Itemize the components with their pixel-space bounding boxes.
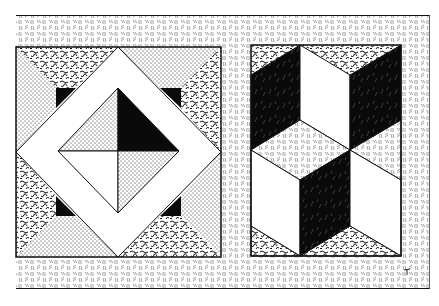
square-in-square-block: [16, 47, 221, 257]
tumbling-blocks-block: [251, 45, 401, 256]
quilt-illustration: [0, 0, 439, 306]
